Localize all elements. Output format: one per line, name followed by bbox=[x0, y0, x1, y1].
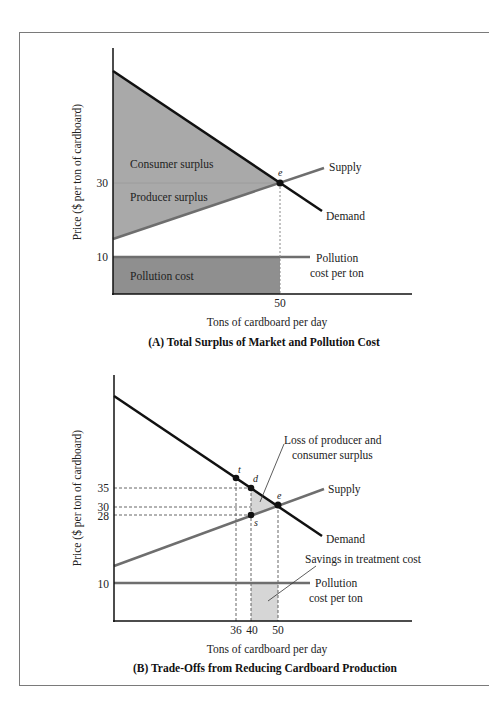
y-tick-30: 30 bbox=[97, 177, 109, 189]
y-tick-10: 10 bbox=[98, 578, 110, 590]
point-d-label: d bbox=[253, 473, 259, 484]
point-e-label: e bbox=[277, 490, 282, 501]
point-e bbox=[277, 180, 284, 187]
pollution-line-label-1: Pollution bbox=[315, 577, 357, 589]
demand-label: Demand bbox=[326, 210, 365, 222]
producer-surplus-label: Producer surplus bbox=[130, 191, 208, 204]
x-axis-label: Tons of cardboard per day bbox=[207, 643, 328, 656]
x-tick-50: 50 bbox=[272, 624, 284, 636]
y-axis-label: Price ($ per ton of cardboard) bbox=[71, 430, 84, 567]
y-tick-28: 28 bbox=[98, 510, 110, 522]
loss-label-1: Loss of producer and bbox=[284, 434, 382, 447]
point-s-label: s bbox=[254, 517, 258, 528]
point-d bbox=[248, 485, 255, 492]
panel-b: t d s e Loss of producer and consumer su… bbox=[71, 375, 422, 675]
demand-label: Demand bbox=[326, 533, 365, 545]
treatment-savings-area bbox=[251, 583, 278, 621]
pollution-line-label-2: cost per ton bbox=[309, 592, 363, 605]
y-tick-35: 35 bbox=[98, 482, 110, 494]
pollution-line-label-2: cost per ton bbox=[310, 267, 364, 280]
consumer-surplus-label: Consumer surplus bbox=[130, 158, 214, 171]
x-tick-36: 36 bbox=[230, 624, 242, 636]
point-e bbox=[275, 502, 282, 509]
supply-label: Supply bbox=[329, 161, 362, 174]
point-t bbox=[233, 475, 240, 482]
point-e-label: e bbox=[278, 167, 283, 178]
pollution-line-label-1: Pollution bbox=[316, 252, 358, 264]
supply-label: Supply bbox=[328, 483, 361, 496]
supply-curve bbox=[114, 489, 324, 566]
panel-b-title: (B) Trade-Offs from Reducing Cardboard P… bbox=[133, 662, 398, 675]
y-tick-10: 10 bbox=[97, 251, 109, 263]
pollution-cost-label: Pollution cost bbox=[130, 270, 194, 282]
x-tick-50: 50 bbox=[274, 297, 286, 309]
y-axis-label: Price ($ per ton of cardboard) bbox=[71, 104, 84, 241]
panel-a-title: (A) Total Surplus of Market and Pollutio… bbox=[148, 336, 380, 349]
x-axis-label: Tons of cardboard per day bbox=[207, 316, 328, 329]
panel-a: e Consumer surplus Producer surplus Poll… bbox=[71, 48, 412, 349]
point-t-label: t bbox=[238, 464, 241, 475]
savings-label: Savings in treatment cost bbox=[305, 553, 422, 566]
loss-label-2: consumer surplus bbox=[292, 449, 373, 462]
x-tick-40: 40 bbox=[246, 624, 258, 636]
